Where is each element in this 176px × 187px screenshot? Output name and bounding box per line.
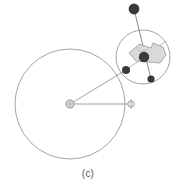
spoke-upper (70, 70, 126, 104)
diagram-canvas (0, 0, 176, 187)
figure-caption: (c) (0, 168, 176, 180)
lower-contact-marker (147, 75, 154, 82)
top-payload-marker (129, 4, 140, 15)
figure-container: (c) (0, 0, 176, 187)
center-hub-dot (69, 103, 72, 106)
payload-rod (134, 9, 151, 79)
contact-marker (122, 66, 130, 74)
body-center-marker (139, 52, 149, 62)
